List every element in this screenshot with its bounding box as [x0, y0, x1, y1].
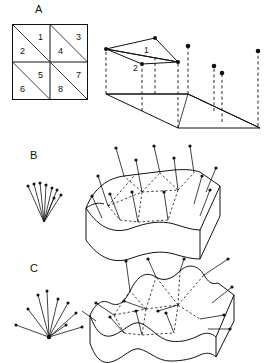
surface-block-c — [88, 259, 238, 363]
normal-vectors — [92, 146, 216, 222]
height-field-3d: 1 2 — [100, 18, 266, 136]
elevated-point — [186, 44, 191, 49]
elevated-point — [140, 62, 144, 66]
triangulated-grid: 1 2 3 4 5 6 7 8 — [12, 24, 88, 100]
panel-b-label: B — [30, 150, 38, 161]
elevated-point — [212, 64, 217, 69]
normal-vector-fan-b — [22, 176, 74, 228]
surface-block-b — [82, 146, 222, 254]
triangle-label-5: 5 — [38, 70, 43, 80]
panel-a: A 1 2 3 4 5 6 7 8 — [0, 0, 266, 140]
triangle-label-1: 1 — [38, 32, 43, 42]
normal-vectors — [82, 259, 232, 335]
panel-c: C — [0, 255, 266, 363]
elevated-point — [256, 49, 261, 54]
elevated-point — [220, 71, 225, 76]
triangle-label-4: 4 — [58, 46, 63, 56]
triangle-label-6: 6 — [20, 84, 25, 94]
elevated-point — [153, 36, 157, 40]
face-label-1: 1 — [144, 45, 149, 55]
triangle-label-2: 2 — [20, 46, 25, 56]
panel-b: B — [0, 140, 266, 255]
face-label-2: 2 — [133, 63, 138, 73]
triangle-label-8: 8 — [58, 84, 63, 94]
panel-a-label: A — [35, 4, 43, 15]
elevated-point — [176, 60, 180, 64]
triangle-label-7: 7 — [76, 70, 81, 80]
figure-canvas: A 1 2 3 4 5 6 7 8 — [0, 0, 266, 363]
normal-vector-fan-c — [14, 285, 90, 347]
triangle-label-3: 3 — [76, 32, 81, 42]
elevated-point — [104, 47, 108, 51]
panel-c-label: C — [30, 263, 38, 274]
